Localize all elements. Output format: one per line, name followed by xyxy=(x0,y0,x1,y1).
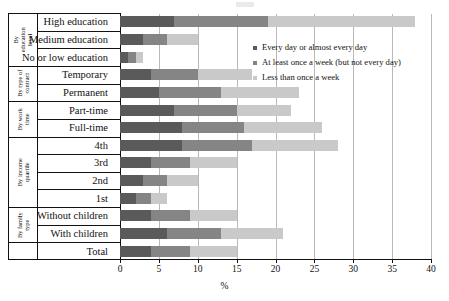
tick-40 xyxy=(431,259,432,263)
bar-segment-series-1 xyxy=(159,87,221,98)
bar-segment-series-2 xyxy=(190,246,237,257)
tick-5 xyxy=(159,259,160,263)
row-separator xyxy=(38,189,120,190)
bar-segment-series-0 xyxy=(120,16,174,27)
legend-swatch-icon-0 xyxy=(253,46,257,50)
tick-15 xyxy=(237,259,238,263)
legend-label-2: Less than once a week xyxy=(262,73,339,82)
group-separator xyxy=(8,207,120,208)
legend-swatch-icon-1 xyxy=(253,61,257,65)
bar-row xyxy=(120,122,431,133)
y-axis-line xyxy=(120,13,121,260)
bar-segment-series-2 xyxy=(268,16,416,27)
bar-row xyxy=(120,193,431,204)
bar-segment-series-2 xyxy=(237,105,291,116)
group-separator xyxy=(8,137,120,138)
bar-segment-series-2 xyxy=(167,34,198,45)
bar-segment-series-0 xyxy=(120,52,128,63)
bar-segment-series-2 xyxy=(190,210,237,221)
bar-row xyxy=(120,175,431,186)
legend-item-2: Less than once a week xyxy=(253,71,401,84)
tick-0 xyxy=(120,259,121,263)
bar-segment-series-2 xyxy=(167,175,198,186)
tick-25 xyxy=(314,259,315,263)
legend-item-0: Every day or almost every day xyxy=(253,41,401,54)
bar-segment-series-1 xyxy=(136,193,152,204)
row-separator xyxy=(38,31,120,32)
tick-label-35: 35 xyxy=(377,264,407,274)
tick-35 xyxy=(392,259,393,263)
tick-label-15: 15 xyxy=(222,264,252,274)
group-separator xyxy=(8,242,120,243)
category-label: Total xyxy=(0,242,112,260)
bar-row xyxy=(120,16,431,27)
bar-segment-series-1 xyxy=(151,69,198,80)
tick-label-40: 40 xyxy=(416,264,446,274)
bar-segment-series-1 xyxy=(174,16,267,27)
legend-label-0: Every day or almost every day xyxy=(262,43,367,52)
bar-segment-series-2 xyxy=(190,157,237,168)
row-separator xyxy=(38,48,120,49)
bar-segment-series-1 xyxy=(151,210,190,221)
bar-segment-series-2 xyxy=(221,228,283,239)
group-label: By family type xyxy=(8,207,38,242)
bar-row xyxy=(120,228,431,239)
tick-label-5: 5 xyxy=(144,264,174,274)
bar-segment-series-1 xyxy=(151,157,190,168)
tick-20 xyxy=(276,259,277,263)
tick-label-25: 25 xyxy=(299,264,329,274)
row-separator xyxy=(38,84,120,85)
bar-row xyxy=(120,246,431,257)
bar-segment-series-2 xyxy=(221,87,299,98)
bar-row xyxy=(120,157,431,168)
stacked-bar-chart: 0510152025303540 % High educationMedium … xyxy=(0,0,449,301)
x-axis-title: % xyxy=(0,281,449,291)
group-label: By income quartile xyxy=(8,137,38,208)
bar-segment-series-1 xyxy=(143,175,166,186)
group-label: By work time xyxy=(8,101,38,136)
scan-artifact xyxy=(236,2,254,7)
bar-segment-series-0 xyxy=(120,246,151,257)
row-separator xyxy=(38,172,120,173)
bar-segment-series-1 xyxy=(167,228,221,239)
bar-segment-series-0 xyxy=(120,228,167,239)
bar-segment-series-0 xyxy=(120,87,159,98)
tick-30 xyxy=(353,259,354,263)
legend-swatch-icon-2 xyxy=(253,76,257,80)
chart-legend: Every day or almost every day At least o… xyxy=(253,41,401,86)
bar-segment-series-0 xyxy=(120,122,182,133)
group-label: By education level xyxy=(8,13,38,66)
bar-segment-series-2 xyxy=(151,193,167,204)
legend-item-1: At least once a week (but not every day) xyxy=(253,56,401,69)
bar-segment-series-1 xyxy=(182,140,252,151)
bar-segment-series-0 xyxy=(120,175,143,186)
bar-segment-series-1 xyxy=(143,34,166,45)
bar-segment-series-1 xyxy=(174,105,236,116)
row-separator xyxy=(38,225,120,226)
row-separator xyxy=(38,154,120,155)
bar-segment-series-2 xyxy=(252,140,338,151)
tick-10 xyxy=(198,259,199,263)
tick-label-30: 30 xyxy=(338,264,368,274)
bar-segment-series-0 xyxy=(120,140,182,151)
bar-row xyxy=(120,140,431,151)
bar-row xyxy=(120,105,431,116)
bar-segment-series-0 xyxy=(120,105,174,116)
group-separator xyxy=(8,101,120,102)
bar-segment-series-2 xyxy=(198,69,252,80)
bar-segment-series-1 xyxy=(182,122,244,133)
gridline-40 xyxy=(431,14,432,259)
bar-row xyxy=(120,87,431,98)
bar-segment-series-0 xyxy=(120,157,151,168)
bar-segment-series-0 xyxy=(120,210,151,221)
legend-label-1: At least once a week (but not every day) xyxy=(262,58,401,67)
group-separator xyxy=(8,66,120,67)
bar-row xyxy=(120,210,431,221)
bar-segment-series-1 xyxy=(151,246,190,257)
row-separator xyxy=(38,119,120,120)
group-label: By type of contract xyxy=(8,66,38,101)
bar-segment-series-2 xyxy=(244,122,322,133)
tick-label-20: 20 xyxy=(261,264,291,274)
bar-segment-series-0 xyxy=(120,193,136,204)
bar-segment-series-0 xyxy=(120,34,143,45)
